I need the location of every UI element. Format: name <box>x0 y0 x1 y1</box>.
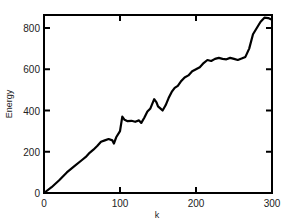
svg-text:300: 300 <box>264 198 281 209</box>
svg-text:100: 100 <box>112 198 129 209</box>
svg-text:600: 600 <box>23 64 40 75</box>
svg-text:0: 0 <box>34 188 40 199</box>
x-axis-label: k <box>155 210 160 220</box>
svg-text:200: 200 <box>188 198 205 209</box>
svg-text:0: 0 <box>41 198 47 209</box>
tick-labels: 01002003000200400600800 <box>23 23 280 209</box>
svg-text:800: 800 <box>23 23 40 34</box>
y-axis-label: Energy <box>4 89 14 118</box>
svg-text:400: 400 <box>23 106 40 117</box>
svg-text:200: 200 <box>23 147 40 158</box>
energy-chart: 01002003000200400600800 k Energy <box>0 0 296 224</box>
energy-line <box>44 18 272 193</box>
